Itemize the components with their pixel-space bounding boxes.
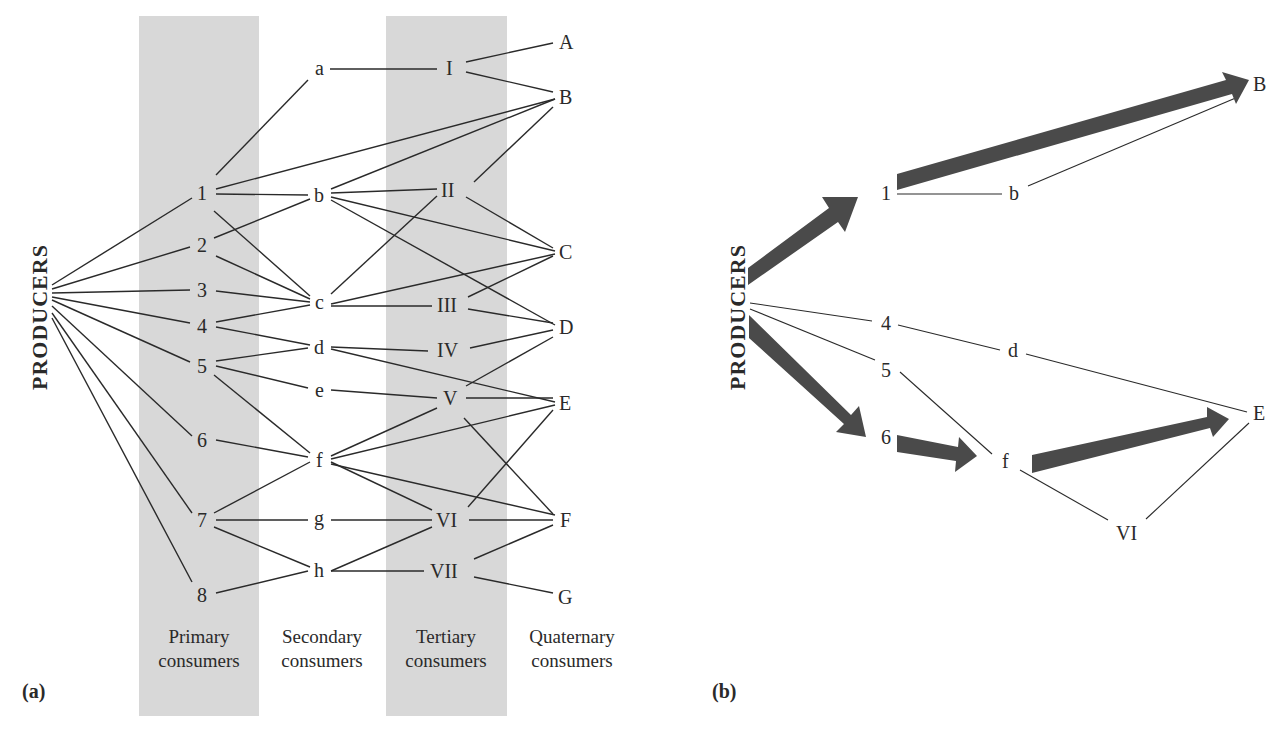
node-F: F: [560, 509, 571, 531]
node-b-1: 1: [881, 182, 891, 204]
arrow-producers-to-6: [749, 315, 866, 437]
level-secondary-line2: consumers: [281, 650, 362, 671]
arrow-6-to-f: [897, 435, 977, 472]
level-tertiary-line1: Tertiary: [416, 626, 476, 647]
node-E: E: [559, 392, 571, 414]
node-A: A: [559, 31, 574, 53]
arrow-f-to-E: [1032, 407, 1229, 473]
node-b-6: 6: [881, 426, 891, 448]
node-3: 3: [197, 279, 207, 301]
level-quaternary-line1: Quaternary: [529, 626, 615, 647]
level-tertiary-line2: consumers: [405, 650, 486, 671]
node-D: D: [559, 316, 573, 338]
node-e: e: [315, 379, 324, 401]
node-f: f: [316, 449, 323, 471]
node-VII: VII: [430, 560, 458, 582]
node-4: 4: [197, 315, 207, 337]
node-h: h: [314, 559, 324, 581]
node-b-b: b: [1009, 182, 1019, 204]
node-b-VI: VI: [1116, 522, 1137, 544]
secondary-consumer-nodes: a b c d e f g h: [314, 57, 324, 581]
node-c: c: [315, 291, 324, 313]
node-b-d: d: [1008, 339, 1018, 361]
node-8: 8: [197, 584, 207, 606]
node-IV: IV: [437, 339, 459, 361]
node-a: a: [315, 57, 324, 79]
producers-label-b: PRODUCERS: [725, 244, 750, 390]
node-V: V: [443, 387, 458, 409]
producers-label-a: PRODUCERS: [27, 244, 52, 390]
node-G: G: [558, 586, 572, 608]
node-b: b: [314, 184, 324, 206]
level-secondary-line1: Secondary: [282, 626, 363, 647]
node-1: 1: [197, 182, 207, 204]
node-b-5: 5: [881, 359, 891, 381]
level-quaternary-line2: consumers: [531, 650, 612, 671]
arrow-producers-to-1: [748, 197, 858, 285]
node-III: III: [437, 294, 457, 316]
arrow-1-to-B: [897, 72, 1249, 190]
node-g: g: [314, 507, 324, 530]
node-b-B: B: [1253, 73, 1266, 95]
panel-b-energy-arrows: [748, 72, 1249, 473]
node-B: B: [559, 86, 572, 108]
node-b-f: f: [1002, 450, 1009, 472]
node-b-E: E: [1253, 402, 1265, 424]
quaternary-consumer-nodes: A B C D E F G: [558, 31, 574, 608]
panel-a-label: (a): [22, 680, 45, 703]
node-II: II: [441, 179, 454, 201]
panel-b: PRODUCERS 1 b B 4 d 5 6 f E VI (b): [712, 72, 1266, 703]
node-7: 7: [197, 509, 207, 531]
node-d: d: [314, 336, 324, 358]
node-6: 6: [197, 429, 207, 451]
node-2: 2: [197, 234, 207, 256]
node-b-4: 4: [881, 312, 891, 334]
level-primary-line2: consumers: [158, 650, 239, 671]
node-VI: VI: [436, 509, 457, 531]
food-web-figure: PRODUCERS 1 2 3 4 5 6 7 8 a b c d e f g …: [0, 0, 1287, 731]
level-primary-line1: Primary: [168, 626, 230, 647]
panel-b-label: (b): [712, 680, 736, 703]
node-I: I: [446, 57, 453, 79]
node-C: C: [559, 241, 572, 263]
node-5: 5: [197, 355, 207, 377]
panel-b-nodes: 1 b B 4 d 5 6 f E VI: [881, 73, 1266, 544]
panel-a: PRODUCERS 1 2 3 4 5 6 7 8 a b c d e f g …: [22, 16, 615, 716]
